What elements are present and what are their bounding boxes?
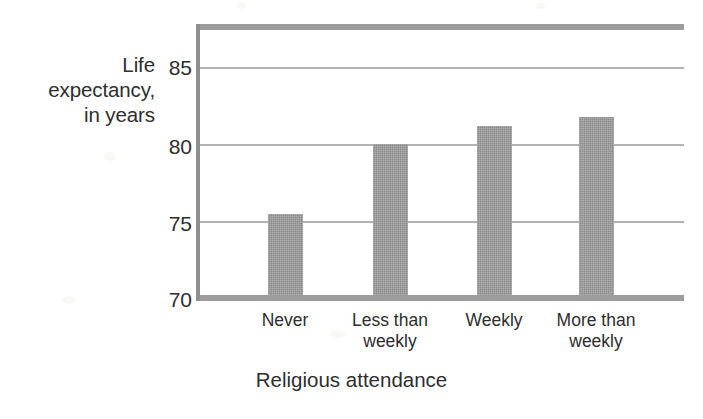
plot-area <box>196 24 684 301</box>
x-axis-baseline <box>196 295 684 301</box>
x-category-label-less-than-weekly: Less than weekly <box>330 310 450 352</box>
y-tick-label-70: 70 <box>152 289 192 310</box>
x-category-label-never: Never <box>225 310 345 331</box>
bar-weekly <box>477 126 512 295</box>
bar-chart-figure: Life expectancy, in years 85 80 75 70 Ne… <box>0 0 703 419</box>
y-tick-label-75: 75 <box>152 213 192 234</box>
y-tick-label-85: 85 <box>152 57 192 78</box>
scan-artifact <box>62 296 76 304</box>
bar-more-than-weekly <box>579 117 614 295</box>
scan-artifact <box>536 3 545 9</box>
y-axis-title: Life expectancy, in years <box>10 52 155 127</box>
bar-never <box>268 214 303 295</box>
bar-less-than-weekly <box>373 144 408 295</box>
scan-artifact <box>236 2 246 9</box>
x-category-label-more-than-weekly: More than weekly <box>536 310 656 352</box>
gridline-85 <box>200 67 684 69</box>
x-axis-title: Religious attendance <box>0 368 703 392</box>
scan-artifact <box>104 152 116 161</box>
y-tick-label-80: 80 <box>152 136 192 157</box>
plot-top-rule <box>196 24 684 30</box>
y-axis-spine <box>196 24 200 301</box>
